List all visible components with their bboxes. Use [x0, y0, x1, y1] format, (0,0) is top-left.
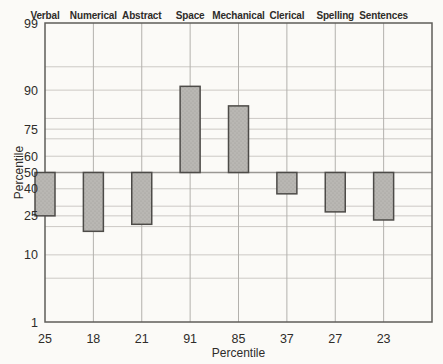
- y-tick-label-1: 1: [31, 316, 38, 330]
- category-label-abstract: Abstract: [122, 10, 162, 21]
- value-label-numerical: 18: [86, 332, 100, 346]
- y-tick-label-60: 60: [24, 150, 38, 164]
- dat-aptitude-profile-chart: 99907560504025101 VerbalNumericalAbstrac…: [0, 0, 443, 364]
- x-axis-title: Percentile: [212, 346, 266, 360]
- value-label-sentences: 23: [377, 332, 391, 346]
- value-label-clerical: 37: [280, 332, 294, 346]
- category-labels: VerbalNumericalAbstractSpaceMechanicalCl…: [30, 10, 408, 21]
- category-label-verbal: Verbal: [30, 10, 59, 21]
- value-label-space: 91: [183, 332, 197, 346]
- category-label-sentences: Sentences: [359, 10, 408, 21]
- value-label-verbal: 25: [38, 332, 52, 346]
- category-label-space: Space: [176, 10, 205, 21]
- bar-abstract: [132, 173, 152, 225]
- bar-mechanical: [229, 106, 249, 173]
- category-label-mechanical: Mechanical: [212, 10, 265, 21]
- bar-spelling: [325, 173, 345, 212]
- y-tick-label-75: 75: [24, 123, 38, 137]
- category-label-numerical: Numerical: [70, 10, 117, 21]
- bar-numerical: [83, 173, 103, 232]
- category-label-spelling: Spelling: [316, 10, 354, 21]
- value-label-abstract: 21: [135, 332, 149, 346]
- y-axis-title: Percentile: [12, 146, 26, 200]
- value-label-mechanical: 85: [232, 332, 246, 346]
- y-tick-label-25: 25: [24, 209, 38, 223]
- bar-space: [180, 86, 200, 172]
- category-label-clerical: Clerical: [269, 10, 304, 21]
- value-label-spelling: 27: [328, 332, 342, 346]
- y-tick-label-90: 90: [24, 84, 38, 98]
- y-axis-tick-labels: 99907560504025101: [24, 17, 38, 330]
- percentile-bar-chart-svg: 99907560504025101 VerbalNumericalAbstrac…: [0, 0, 443, 364]
- y-tick-label-40: 40: [24, 182, 38, 196]
- bar-sentences: [374, 173, 394, 220]
- y-tick-label-50: 50: [24, 166, 38, 180]
- y-tick-label-10: 10: [24, 248, 38, 262]
- value-labels: 2518219185372723: [38, 332, 391, 346]
- bars: [35, 86, 394, 231]
- bar-verbal: [35, 173, 55, 216]
- bar-clerical: [277, 173, 297, 194]
